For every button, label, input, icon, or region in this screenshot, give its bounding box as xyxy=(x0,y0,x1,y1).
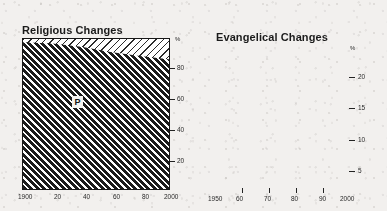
religious-y-tick-mark-20 xyxy=(170,161,175,162)
evangelical-y-axis-unit: % xyxy=(350,45,355,51)
religious-y-tick-mark-60 xyxy=(170,99,175,100)
evangelical-y-tick-label-5: 5 xyxy=(358,168,362,175)
evangelical-x-tick-mark-1960 xyxy=(242,188,243,193)
religious-plot-area: P xyxy=(22,38,170,190)
evangelical-y-tick-mark-10 xyxy=(349,140,355,141)
religious-y-tick-label-40: 40 xyxy=(177,127,184,134)
evangelical-y-tick-label-10: 10 xyxy=(358,137,365,144)
evangelical-x-tick-label-80: 80 xyxy=(291,196,298,203)
religious-y-tick-mark-40 xyxy=(170,130,175,131)
evangelical-x-tick-mark-1980 xyxy=(296,188,297,193)
religious-x-tick-label-20: 20 xyxy=(54,194,61,201)
religious-y-tick-label-20: 20 xyxy=(177,158,184,165)
evangelical-y-tick-mark-15 xyxy=(349,108,355,109)
evangelical-y-tick-mark-5 xyxy=(349,171,355,172)
evangelical-x-tick-label-2000: 2000 xyxy=(340,196,354,203)
evangelical-changes-figure: Evangelical Changes % 20 15 10 5 1950 60… xyxy=(190,0,387,211)
religious-y-tick-label-60: 60 xyxy=(177,96,184,103)
evangelical-y-tick-label-20: 20 xyxy=(358,74,365,81)
evangelical-x-tick-label-90: 90 xyxy=(319,196,326,203)
protestant-band xyxy=(23,39,169,189)
evangelical-x-tick-label-1950: 1950 xyxy=(208,196,222,203)
evangelical-x-tick-label-70: 70 xyxy=(264,196,271,203)
religious-x-tick-label-2000: 2000 xyxy=(164,194,178,201)
protestant-series-label: P xyxy=(72,96,83,108)
religious-x-tick-label-1900: 1900 xyxy=(18,194,32,201)
religious-y-tick-mark-80 xyxy=(170,68,175,69)
evangelical-x-tick-mark-1970 xyxy=(269,188,270,193)
evangelical-chart-title: Evangelical Changes xyxy=(216,31,328,43)
religious-chart-title: Religious Changes xyxy=(22,24,123,36)
evangelical-x-tick-label-60: 60 xyxy=(236,196,243,203)
religious-x-tick-label-80: 80 xyxy=(142,194,149,201)
religious-x-tick-label-60: 60 xyxy=(113,194,120,201)
religious-y-axis-unit: % xyxy=(175,36,180,42)
religious-y-tick-label-80: 80 xyxy=(177,65,184,72)
evangelical-y-tick-label-15: 15 xyxy=(358,105,365,112)
evangelical-x-tick-mark-1990 xyxy=(323,188,324,193)
religious-changes-figure: Religious Changes P % 80 60 40 20 1900 2… xyxy=(0,0,190,211)
religious-x-tick-label-40: 40 xyxy=(83,194,90,201)
evangelical-y-tick-mark-20 xyxy=(349,77,355,78)
